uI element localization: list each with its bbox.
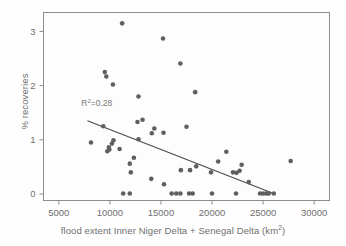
data-point bbox=[129, 170, 134, 175]
data-point bbox=[210, 191, 215, 196]
data-point bbox=[136, 94, 141, 99]
data-point bbox=[234, 171, 239, 176]
data-point bbox=[121, 191, 126, 196]
data-point bbox=[102, 70, 107, 75]
data-point bbox=[174, 191, 179, 196]
y-axis-label: % recoveries bbox=[19, 42, 30, 162]
data-point bbox=[169, 191, 174, 196]
data-point bbox=[111, 82, 116, 87]
data-point bbox=[266, 191, 271, 196]
data-point bbox=[162, 182, 167, 187]
data-point bbox=[161, 130, 166, 135]
data-point bbox=[272, 191, 277, 196]
y-tick-label: 0 bbox=[30, 188, 35, 199]
scatter-plot: 50001000015000200002500030000 0123 R2=0.… bbox=[0, 0, 346, 246]
x-tick-label: 15000 bbox=[148, 207, 174, 218]
annotations-group: R2=0.28 bbox=[81, 98, 112, 108]
data-point bbox=[184, 125, 189, 130]
x-axis-label: flood extent Inner Niger Delta + Senegal… bbox=[0, 224, 346, 236]
data-point bbox=[188, 168, 193, 173]
data-point bbox=[136, 137, 141, 142]
data-point bbox=[128, 191, 133, 196]
data-point bbox=[216, 159, 221, 164]
data-point bbox=[178, 61, 183, 66]
data-point bbox=[193, 90, 198, 95]
x-axis-ticks: 50001000015000200002500030000 bbox=[48, 201, 327, 218]
data-point bbox=[135, 120, 140, 125]
data-point bbox=[149, 131, 154, 136]
x-tick-label: 5000 bbox=[48, 207, 69, 218]
data-point bbox=[110, 141, 115, 146]
data-point bbox=[128, 161, 133, 166]
data-point bbox=[149, 177, 154, 182]
data-point bbox=[239, 162, 244, 167]
data-point bbox=[101, 124, 106, 129]
data-point bbox=[224, 149, 229, 154]
data-point bbox=[140, 117, 145, 122]
data-point bbox=[89, 140, 94, 145]
data-point bbox=[288, 159, 293, 164]
data-point bbox=[190, 191, 195, 196]
data-point bbox=[152, 126, 157, 131]
y-tick-label: 1 bbox=[30, 134, 35, 145]
x-tick-label: 10000 bbox=[97, 207, 123, 218]
data-point bbox=[105, 149, 110, 154]
chart-figure: 50001000015000200002500030000 0123 R2=0.… bbox=[0, 0, 346, 246]
y-tick-label: 2 bbox=[30, 80, 35, 91]
x-label-superscript: 2 bbox=[278, 224, 282, 231]
x-tick-label: 20000 bbox=[199, 207, 225, 218]
x-tick-label: 30000 bbox=[301, 207, 327, 218]
data-point bbox=[179, 168, 184, 173]
data-point bbox=[234, 191, 239, 196]
data-point bbox=[104, 74, 109, 79]
data-point bbox=[209, 170, 214, 175]
data-point bbox=[132, 155, 137, 160]
data-point bbox=[120, 21, 125, 26]
data-point bbox=[161, 36, 166, 41]
data-point bbox=[194, 164, 199, 169]
data-point bbox=[247, 180, 252, 185]
y-axis-ticks: 0123 bbox=[30, 26, 43, 200]
y-tick-label: 3 bbox=[30, 26, 35, 37]
data-point bbox=[117, 147, 122, 152]
x-tick-label: 25000 bbox=[250, 207, 276, 218]
r-squared-label: R2=0.28 bbox=[81, 98, 112, 108]
data-point bbox=[178, 191, 183, 196]
